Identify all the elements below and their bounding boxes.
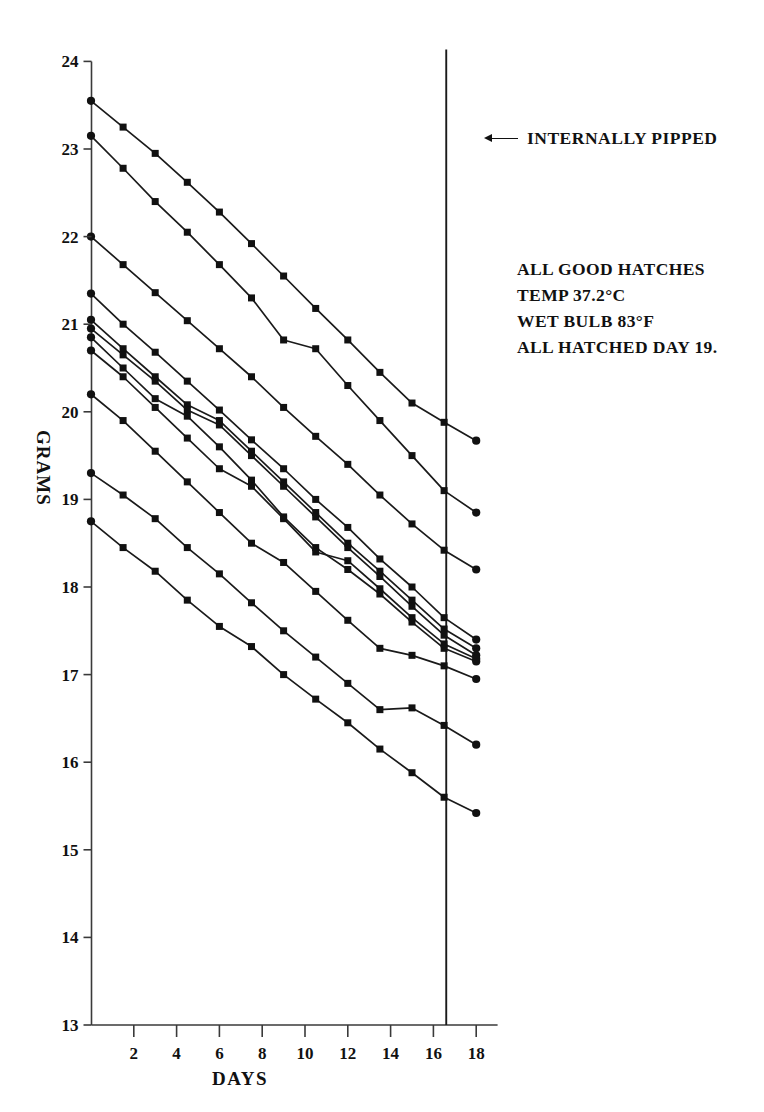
data-point-marker — [87, 469, 95, 477]
data-point-marker — [184, 413, 191, 420]
data-point-marker — [441, 487, 448, 494]
data-point-marker — [312, 345, 319, 352]
y-tick-label: 18 — [62, 578, 79, 597]
data-point-marker — [280, 515, 287, 522]
data-series — [87, 390, 480, 683]
data-point-marker — [280, 559, 287, 566]
data-point-marker — [184, 179, 191, 186]
data-point-marker — [312, 548, 319, 555]
data-point-marker — [184, 478, 191, 485]
x-axis-title: DAYS — [0, 1068, 480, 1090]
data-point-marker — [472, 809, 480, 817]
data-point-marker — [216, 421, 223, 428]
y-tick-label: 21 — [62, 315, 79, 334]
data-point-marker — [344, 336, 351, 343]
data-point-marker — [120, 165, 127, 172]
data-point-marker — [152, 198, 159, 205]
arrow-left-icon — [484, 133, 518, 145]
data-point-marker — [280, 483, 287, 490]
data-point-marker — [344, 544, 351, 551]
data-point-marker — [409, 400, 416, 407]
data-point-marker — [248, 540, 255, 547]
data-point-marker — [472, 655, 480, 663]
data-point-marker — [184, 378, 191, 385]
data-point-marker — [472, 508, 480, 516]
data-point-marker — [216, 465, 223, 472]
x-tick-label: 14 — [382, 1044, 400, 1063]
data-point-marker — [87, 289, 95, 297]
data-point-marker — [376, 573, 383, 580]
data-point-marker — [216, 570, 223, 577]
data-point-marker — [472, 741, 480, 749]
data-point-marker — [344, 680, 351, 687]
y-tick-label: 14 — [62, 928, 80, 947]
data-point-marker — [441, 419, 448, 426]
line-chart-plot: 131415161718192021222324 24681012141618 — [0, 0, 764, 1112]
y-tick-label: 24 — [62, 52, 80, 71]
y-tick-label: 16 — [62, 753, 79, 772]
data-point-marker — [152, 378, 159, 385]
data-point-marker — [344, 617, 351, 624]
data-point-marker — [248, 373, 255, 380]
data-point-marker — [184, 229, 191, 236]
data-point-marker — [152, 448, 159, 455]
note-line-3: WET BULB 83°F — [517, 308, 757, 334]
data-point-marker — [152, 404, 159, 411]
y-axis-title: GRAMS — [14, 430, 54, 506]
data-point-marker — [344, 557, 351, 564]
data-point-marker — [248, 452, 255, 459]
data-point-marker — [472, 675, 480, 683]
data-point-marker — [120, 544, 127, 551]
data-point-marker — [184, 435, 191, 442]
y-axis-tick-labels: 131415161718192021222324 — [62, 52, 92, 1035]
x-tick-label: 12 — [339, 1044, 356, 1063]
data-point-marker — [87, 346, 95, 354]
data-point-marker — [409, 652, 416, 659]
data-point-marker — [376, 585, 383, 592]
data-point-marker — [344, 524, 351, 531]
data-point-marker — [409, 704, 416, 711]
data-point-marker — [152, 349, 159, 356]
data-point-marker — [87, 132, 95, 140]
data-point-marker — [376, 746, 383, 753]
data-series-group — [87, 97, 480, 817]
data-point-marker — [441, 547, 448, 554]
data-point-marker — [87, 97, 95, 105]
data-point-marker — [248, 477, 255, 484]
chart-notes-block: ALL GOOD HATCHES TEMP 37.2°C WET BULB 83… — [517, 256, 757, 360]
data-point-marker — [216, 623, 223, 630]
data-point-marker — [409, 597, 416, 604]
data-point-marker — [248, 483, 255, 490]
data-point-marker — [441, 794, 448, 801]
data-point-marker — [441, 632, 448, 639]
data-point-marker — [280, 465, 287, 472]
data-point-marker — [376, 492, 383, 499]
data-point-marker — [312, 513, 319, 520]
data-point-marker — [87, 324, 95, 332]
data-point-marker — [216, 509, 223, 516]
data-series — [87, 97, 480, 445]
data-point-marker — [184, 317, 191, 324]
data-point-marker — [441, 662, 448, 669]
data-point-marker — [120, 373, 127, 380]
data-point-marker — [216, 261, 223, 268]
internally-pipped-label: INTERNALLY PIPPED — [527, 128, 718, 149]
data-point-marker — [120, 417, 127, 424]
x-tick-label: 4 — [172, 1044, 181, 1063]
x-tick-label: 2 — [130, 1044, 139, 1063]
x-tick-label: 18 — [468, 1044, 485, 1063]
data-point-marker — [344, 566, 351, 573]
y-tick-label: 15 — [62, 841, 79, 860]
y-tick-label: 13 — [62, 1016, 79, 1035]
data-point-marker — [409, 584, 416, 591]
data-point-marker — [409, 520, 416, 527]
data-point-marker — [120, 321, 127, 328]
data-point-marker — [216, 209, 223, 216]
data-point-marker — [248, 240, 255, 247]
data-point-marker — [409, 452, 416, 459]
data-point-marker — [409, 769, 416, 776]
data-point-marker — [472, 644, 480, 652]
chart-container: 131415161718192021222324 24681012141618 … — [0, 0, 764, 1112]
data-point-marker — [344, 461, 351, 468]
x-tick-label: 10 — [297, 1044, 314, 1063]
